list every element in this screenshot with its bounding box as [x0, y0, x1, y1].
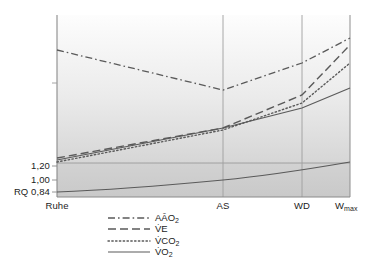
- xtick-label-as: AS: [203, 201, 243, 211]
- legend-label-ve: V̇E: [155, 223, 168, 234]
- legend-label-vco2-sub: 2: [176, 240, 180, 247]
- xtick-label-ruhe: Ruhe: [37, 201, 77, 211]
- plot-background-upper: [57, 15, 350, 163]
- xtick-label-wd: WD: [282, 201, 322, 211]
- legend-label-vco2-co: CO: [161, 235, 175, 246]
- xtick-label-wmax: Wmax: [335, 201, 358, 212]
- legend-label-vo2: V̇O2: [155, 246, 173, 258]
- ytick-label-120: 1,20: [0, 161, 50, 171]
- xtick-label-wmax-main: W: [335, 200, 344, 211]
- chart-canvas: [0, 0, 380, 275]
- legend-label-vo2-sub: 2: [169, 251, 173, 258]
- plot-background-lower-rq-band: [57, 163, 350, 197]
- ytick-label-rq-084: RQ 0,84: [0, 187, 50, 197]
- legend-label-aado2-o: O: [168, 212, 175, 223]
- legend-label-vo2-o: O: [161, 246, 168, 257]
- ytick-label-100: 1,00: [0, 175, 50, 185]
- xtick-label-wmax-sub: max: [344, 205, 358, 212]
- chart-figure: 1,20 1,00 RQ 0,84 Ruhe AS WD Wmax AĀO2 V…: [0, 0, 380, 275]
- legend-label-ve-e: E: [161, 223, 167, 234]
- legend-label-aado2-sub: 2: [175, 217, 179, 224]
